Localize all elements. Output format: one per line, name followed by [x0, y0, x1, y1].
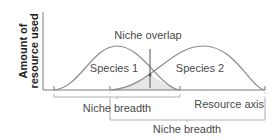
species-1-niche-breadth-bracket: [54, 94, 180, 99]
x-axis-label: Resource axis: [194, 98, 264, 110]
niche-overlap-diagram: Amount of resource used Niche overlap Sp…: [0, 0, 277, 140]
niche-overlap-label: Niche overlap: [114, 29, 181, 41]
species-1-niche-breadth-label: Niche breadth: [83, 102, 152, 114]
intersection-point: [149, 74, 152, 77]
species-2-niche-breadth-label: Niche breadth: [153, 123, 222, 135]
y-axis-label-line2: resource used: [28, 13, 40, 88]
species-2-label: Species 2: [176, 62, 224, 74]
species-1-label: Species 1: [90, 62, 138, 74]
